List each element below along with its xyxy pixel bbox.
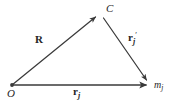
vector-R-line — [12, 17, 96, 85]
rj-subscript: j — [78, 91, 80, 100]
point-label-origin: O — [7, 88, 15, 99]
vector-diagram: O C mj R rj rj′ — [0, 0, 171, 103]
prime-mark: ′ — [135, 31, 137, 40]
vector-label-R: R — [35, 34, 43, 45]
point-label-mass: mj — [154, 80, 163, 92]
vector-label-rj: rj — [73, 86, 80, 100]
vector-rj-prime-line — [104, 18, 147, 80]
diagram-canvas — [0, 0, 171, 103]
mass-subscript: j — [161, 83, 163, 92]
point-label-center: C — [106, 3, 113, 14]
vector-label-rj-prime: rj′ — [128, 32, 137, 46]
